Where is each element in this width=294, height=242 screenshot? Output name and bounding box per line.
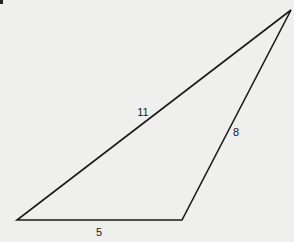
triangle-diagram: 11 8 5	[0, 0, 294, 242]
side-label-right-side: 8	[233, 127, 239, 138]
triangle-figure	[0, 0, 294, 242]
side-label-base: 5	[96, 227, 102, 238]
triangle-shape	[17, 10, 291, 220]
side-label-hypotenuse: 11	[137, 107, 148, 118]
